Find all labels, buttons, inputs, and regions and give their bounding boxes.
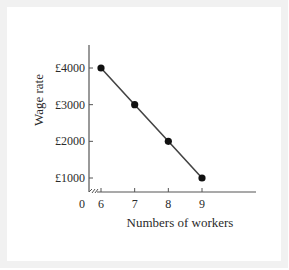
x-tick-label: 7 — [132, 197, 138, 211]
series — [97, 64, 205, 181]
y-tick-label: £3000 — [55, 98, 85, 112]
data-point — [165, 138, 172, 145]
axis-break-mark — [89, 189, 98, 193]
ticks: £1000£2000£3000£40006789 — [55, 61, 205, 211]
series-line — [101, 68, 202, 178]
axes — [89, 45, 256, 193]
data-point — [97, 64, 104, 71]
y-tick-label: £4000 — [55, 61, 85, 75]
data-point — [131, 101, 138, 108]
x-axis-label: Numbers of workers — [127, 215, 234, 230]
x-tick-label: 8 — [165, 197, 171, 211]
y-axis-label: Wage rate — [31, 74, 46, 126]
y-tick-label: £1000 — [55, 171, 85, 185]
y-tick-label: £2000 — [55, 134, 85, 148]
data-point — [198, 174, 205, 181]
origin-label: 0 — [79, 197, 85, 211]
wage-rate-chart: £1000£2000£3000£40006789 Numbers of work… — [0, 0, 289, 270]
x-tick-label: 6 — [98, 197, 104, 211]
x-tick-label: 9 — [199, 197, 205, 211]
